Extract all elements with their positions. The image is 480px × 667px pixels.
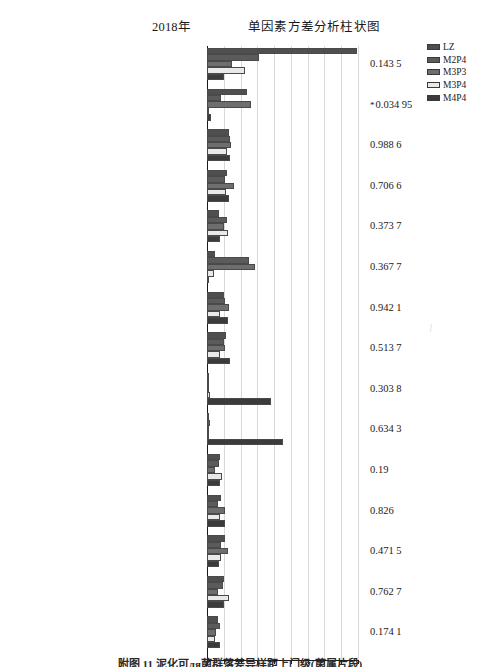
bar-group [207, 292, 358, 324]
p-value-text: 0.826 [370, 505, 394, 516]
bar-m4p4 [207, 195, 229, 201]
legend-item: M4P4 [427, 91, 479, 104]
p-value-label: 0.826 [370, 505, 394, 517]
bar-group [207, 89, 358, 121]
bar-m4p4 [207, 358, 230, 364]
legend-item: M3P4 [427, 79, 479, 92]
legend-item: M2P4 [427, 54, 479, 67]
bar-group [207, 210, 358, 242]
bar-chart-plot-area: 平均比例(%) 024681012141618Enterobacter0.143… [207, 46, 358, 614]
bar-m4p4 [207, 642, 220, 648]
legend-swatch-icon [427, 69, 440, 75]
p-value-label: 0.143 5 [370, 58, 402, 70]
p-value-text: 0.762 7 [370, 586, 402, 597]
bar-m4p4 [207, 317, 228, 323]
p-value-text: 0.634 3 [370, 423, 402, 434]
bar-group [207, 48, 358, 80]
significance-star-icon: * [370, 100, 375, 110]
bar-m4p4 [207, 480, 220, 486]
p-value-label: 0.19 [370, 464, 388, 476]
bar-group [207, 251, 358, 283]
legend-item: LZ [427, 41, 479, 54]
bar-group [207, 373, 358, 405]
bar-m4p4 [207, 601, 224, 607]
p-value-text: 0.303 8 [370, 383, 402, 394]
p-value-text: 0.034 95 [376, 99, 413, 110]
p-value-text: 0.174 1 [370, 626, 402, 637]
bar-m4p4 [207, 114, 211, 120]
legend-swatch-icon [427, 44, 440, 50]
p-value-label: 0.303 8 [370, 383, 402, 395]
p-value-text: 0.373 7 [370, 220, 402, 231]
p-value-text: 0.942 1 [370, 302, 402, 313]
p-value-label: 0.373 7 [370, 220, 402, 232]
legend-swatch-icon [427, 57, 440, 63]
p-value-text: 0.513 7 [370, 342, 402, 353]
p-value-label: 0.988 6 [370, 139, 402, 151]
legend-item-label: LZ [443, 42, 455, 52]
legend-item-label: M2P4 [443, 55, 466, 65]
bar-m4p4 [207, 277, 209, 283]
legend-item-label: M3P4 [443, 80, 466, 90]
bar-group [207, 413, 358, 445]
bar-m4p4 [207, 155, 230, 161]
figure-page: 2018年 单因素方差分析柱状图 LZM2P4M3P3M3P4M4P4 平均比例… [0, 0, 480, 667]
page-watermark: ⁄ [428, 322, 435, 332]
p-value-text: 0.367 7 [370, 261, 402, 272]
p-value-label: 0.634 3 [370, 423, 402, 435]
bar-m4p4 [207, 398, 271, 404]
p-value-label: 0.174 1 [370, 626, 402, 638]
bar-m4p4 [207, 561, 219, 567]
p-value-text: 0.143 5 [370, 58, 402, 69]
legend-swatch-icon [427, 95, 440, 101]
chart-title-row: 2018年 单因素方差分析柱状图 [0, 16, 480, 38]
bar-m3p3 [207, 101, 251, 107]
bar-group [207, 495, 358, 527]
p-value-label: 0.762 7 [370, 586, 402, 598]
bar-group [207, 454, 358, 486]
p-value-label: 0.471 5 [370, 545, 402, 557]
legend-item: M3P3 [427, 66, 479, 79]
figure-caption: 附图 11 泥化可ля菌群落差异样距上门级(菌属片段) [0, 655, 480, 667]
bar-m3p3 [207, 264, 255, 270]
bar-group [207, 535, 358, 567]
chart-year-label: 2018年 [152, 16, 191, 35]
bar-group [207, 170, 358, 202]
p-value-text: 0.706 6 [370, 180, 402, 191]
bar-m4p4 [207, 74, 224, 80]
p-value-text: 0.471 5 [370, 545, 402, 556]
bar-m4p4 [207, 439, 283, 445]
bar-group [207, 332, 358, 364]
bar-m4p4 [207, 236, 220, 242]
p-value-label: 0.513 7 [370, 342, 402, 354]
page-title: 单因素方差分析柱状图 [248, 16, 380, 35]
p-value-label: *0.034 95 [370, 99, 412, 112]
legend-swatch-icon [427, 82, 440, 88]
legend-item-label: M3P3 [443, 67, 466, 77]
p-value-text: 0.988 6 [370, 139, 402, 150]
p-value-label: 0.706 6 [370, 180, 402, 192]
bar-group [207, 576, 358, 608]
legend-item-label: M4P4 [443, 93, 466, 103]
x-gridline [358, 46, 359, 660]
bar-group [207, 616, 358, 648]
p-value-label: 0.942 1 [370, 302, 402, 314]
p-value-label: 0.367 7 [370, 261, 402, 273]
chart-legend: LZM2P4M3P3M3P4M4P4 [427, 41, 479, 104]
bar-m4p4 [207, 520, 225, 526]
bar-group [207, 129, 358, 161]
p-value-text: 0.19 [370, 464, 388, 475]
